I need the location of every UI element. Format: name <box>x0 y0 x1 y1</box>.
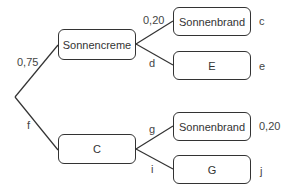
end-label-upper-sonnenbrand: c <box>259 16 265 27</box>
branch-label-c: f <box>27 120 30 131</box>
node-g: G <box>173 155 251 184</box>
branch-label-upper-sonnenbrand: 0,20 <box>143 15 164 26</box>
end-label-e: e <box>259 61 265 72</box>
node-e: E <box>173 51 251 80</box>
node-label: Sonnenbrand <box>179 121 245 133</box>
node-sonnenbrand-upper: Sonnenbrand <box>173 7 251 36</box>
edge-root-sonnencreme <box>15 45 58 97</box>
branch-label-g: i <box>151 164 153 175</box>
node-c: C <box>58 134 136 164</box>
edge-root-c <box>15 97 58 150</box>
branch-label-sonnencreme: 0,75 <box>17 57 38 68</box>
node-label: G <box>208 164 217 176</box>
edge-c-g <box>136 149 173 169</box>
end-label-lower-sonnenbrand: 0,20 <box>259 121 280 132</box>
node-label: Sonnenbrand <box>179 16 245 28</box>
branch-label-e: d <box>149 58 155 69</box>
node-label: Sonnencreme <box>63 39 132 51</box>
node-label: C <box>93 143 101 155</box>
branch-label-lower-sonnenbrand: g <box>149 124 155 135</box>
end-label-g: j <box>260 166 262 177</box>
node-sonnencreme: Sonnencreme <box>58 29 136 60</box>
node-sonnenbrand-lower: Sonnenbrand <box>173 112 251 141</box>
node-label: E <box>208 60 215 72</box>
